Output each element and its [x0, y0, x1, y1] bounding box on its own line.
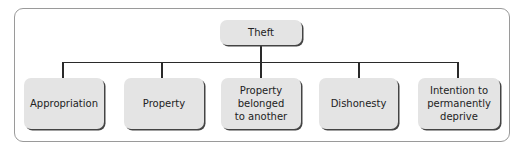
- child-node-label: Appropriation: [30, 97, 98, 110]
- child-node-label: Property belonged to another: [233, 84, 289, 123]
- root-node-label: Theft: [248, 26, 274, 39]
- branch-connector-3: [260, 62, 262, 79]
- branch-connector-2: [161, 62, 163, 79]
- branch-connector-5: [457, 62, 459, 79]
- child-node-label: Intention to permanently deprive: [422, 84, 496, 123]
- child-node-property-belonged-to-another: Property belonged to another: [221, 78, 301, 129]
- branch-connector-1: [62, 62, 64, 79]
- root-node-theft: Theft: [220, 20, 302, 45]
- child-node-appropriation: Appropriation: [24, 78, 104, 129]
- child-node-property: Property: [124, 78, 204, 129]
- child-node-label: Dishonesty: [331, 97, 387, 110]
- trunk-connector: [260, 45, 262, 63]
- branch-connector-4: [358, 62, 360, 79]
- child-node-label: Property: [143, 97, 185, 110]
- child-node-dishonesty: Dishonesty: [319, 78, 398, 129]
- child-node-intention-to-permanently-deprive: Intention to permanently deprive: [418, 78, 500, 129]
